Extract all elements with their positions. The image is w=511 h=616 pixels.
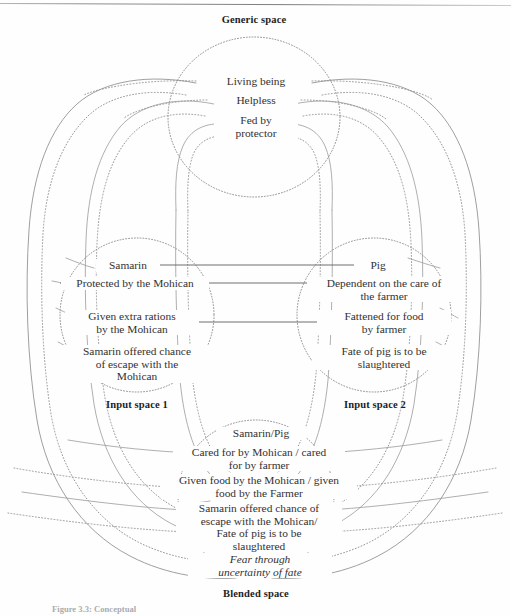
blended-space-entry-samarin-pig: Samarin/Pig [216,427,306,440]
blend-strand-left-4 [8,513,188,532]
input-space-2-entry-dependent: Dependent on the care of the farmer [307,277,461,302]
projection-hook-left-inner-b [188,136,226,212]
figure-caption: Figure 3.3: Conceptual [52,604,472,614]
input-space-1-entry-protected: Protected by the Mohican [61,277,209,290]
blended-space-entry-given-food: Given food by the Mohican / given food b… [161,474,357,499]
input-space-2-title: Input space 2 [315,399,435,410]
leader-right-pig [408,258,440,268]
generic-space-entry-fed-by-protector: Fed by protector [214,114,298,139]
input-space-1-entry-offered-escape: Samarin offered chance of escape with th… [60,345,214,383]
generic-space-entry-living-being: Living being [204,75,308,88]
input-space-1-entry-samarin: Samarin [96,259,160,272]
generic-space-entry-helpless: Helpless [214,94,298,107]
input-space-2-entry-fate: Fate of pig is to be slaughtered [312,345,456,370]
figure-page: .dot { fill:none; stroke:#8d8d8d; stroke… [0,0,511,616]
blended-space-entry-escape-or-slaughter: Samarin offered chance of escape with th… [176,502,342,552]
blended-space-title: Blended space [196,588,316,599]
generic-space-title: Generic space [179,14,329,25]
input-space-1-entry-extra-rations: Given extra rations by the Mohican [65,310,199,335]
input-space-2-entry-pig: Pig [356,259,400,272]
blend-strand-right-4 [324,513,502,532]
generic-to-left-strand-living-being [84,81,196,95]
blended-space-entry-cared-for: Cared for by Mohican / cared for by farm… [173,446,345,471]
leader-left-samarin [66,258,94,268]
blended-space-entry-fear: Fear through uncertainty of fate [188,553,332,578]
input-space-1-title: Input space 1 [77,399,197,410]
input-space-2-entry-fattened: Fattened for food by farmer [317,310,451,335]
generic-to-right-strand-living-being [312,81,433,100]
